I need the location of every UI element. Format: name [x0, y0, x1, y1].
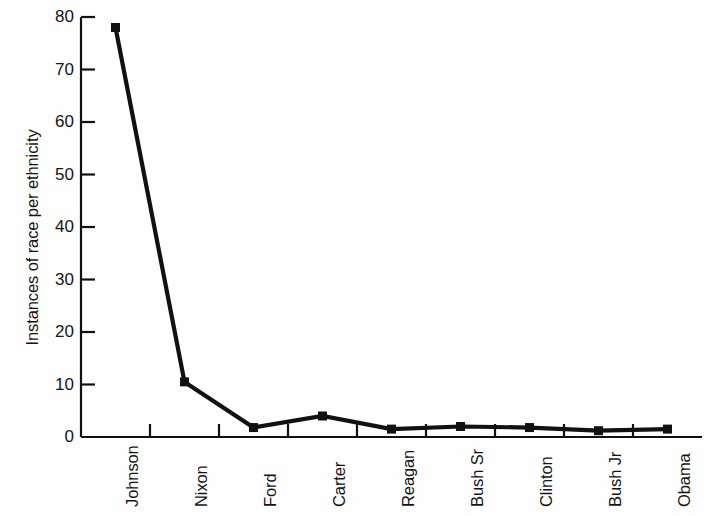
data-point-marker	[663, 425, 672, 434]
data-point-marker	[180, 377, 189, 386]
data-point-marker	[111, 23, 120, 32]
data-line	[116, 28, 668, 431]
x-axis-tick-label: Obama	[675, 453, 694, 507]
data-point-marker	[456, 422, 465, 431]
y-axis-tick-label: 0	[34, 428, 74, 445]
x-axis-tick-label: Carter	[330, 462, 349, 507]
chart-canvas	[0, 0, 708, 516]
x-axis-tick-label: Johnson	[123, 445, 142, 507]
y-axis-tick-label: 70	[34, 61, 74, 78]
x-axis-tick-label: Clinton	[537, 456, 556, 507]
y-axis-tick-label: 80	[34, 8, 74, 25]
data-markers	[111, 23, 672, 435]
y-axis-title: Instances of race per ethnicity	[23, 88, 42, 388]
data-point-marker	[594, 426, 603, 435]
data-point-marker	[525, 423, 534, 432]
y-axis-ticks	[81, 17, 95, 385]
data-point-marker	[318, 412, 327, 421]
x-axis-tick-label: Nixon	[192, 465, 211, 507]
axis-lines	[81, 17, 702, 437]
x-axis-tick-label: Bush Jr	[606, 452, 625, 507]
line-chart: 01020304050607080 JohnsonNixonFordCarter…	[0, 0, 708, 516]
data-point-marker	[387, 425, 396, 434]
x-axis-tick-label: Bush Sr	[468, 449, 487, 507]
x-axis-tick-label: Ford	[261, 473, 280, 507]
data-point-marker	[249, 423, 258, 432]
x-axis-tick-label: Reagan	[399, 450, 418, 507]
